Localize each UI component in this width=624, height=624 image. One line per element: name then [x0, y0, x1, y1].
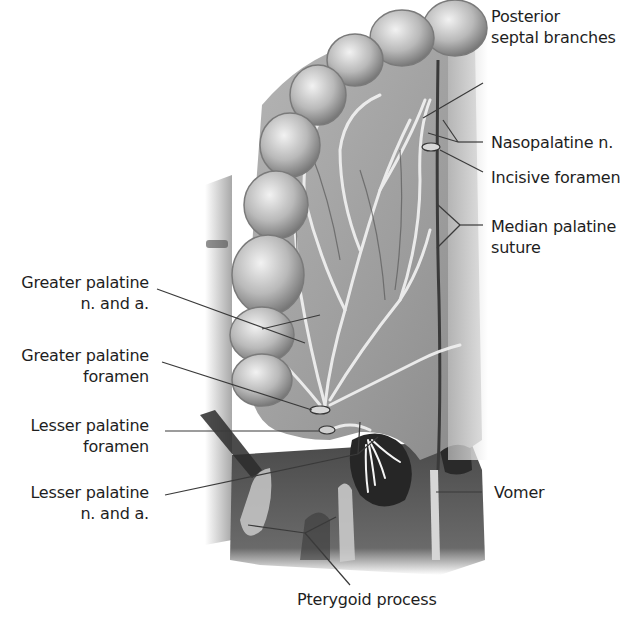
- label-greater-palatine-nerve-artery: Greater palatine n. and a.: [21, 272, 149, 314]
- label-nasopalatine-nerve: Nasopalatine n.: [491, 132, 613, 153]
- label-lesser-palatine-nerve-artery: Lesser palatine n. and a.: [30, 482, 149, 524]
- label-vomer: Vomer: [494, 482, 545, 503]
- label-lesser-palatine-foramen: Lesser palatine foramen: [30, 415, 149, 457]
- label-incisive-foramen: Incisive foramen: [491, 167, 620, 188]
- lateral-maxilla: [205, 175, 232, 545]
- anatomy-figure: Posterior septal branches Nasopalatine n…: [0, 0, 624, 624]
- incisive-foramen-mark: [422, 143, 440, 151]
- label-posterior-septal-branches: Posterior septal branches: [491, 6, 616, 48]
- label-greater-palatine-foramen: Greater palatine foramen: [21, 345, 149, 387]
- greater-palatine-foramen-mark: [310, 406, 330, 414]
- lesser-palatine-foramen-mark: [319, 426, 335, 434]
- label-pterygoid-process: Pterygoid process: [297, 589, 437, 610]
- label-median-palatine-suture: Median palatine suture: [491, 216, 616, 258]
